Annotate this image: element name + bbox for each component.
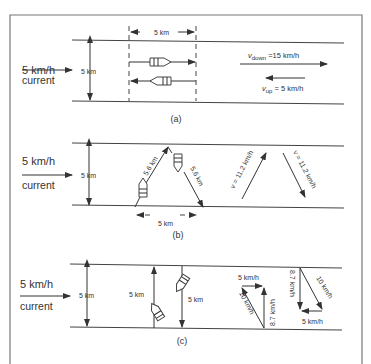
tri2-vert-label: 8.7 km/h xyxy=(289,270,296,297)
panel-c: 5 km/h current 5 km 5 km 5 km 5 km/h 10 … xyxy=(20,264,342,346)
span-label: 5 km xyxy=(158,220,173,227)
leg-down-label: 5.6 km xyxy=(189,165,205,187)
riverbank-bottom xyxy=(70,327,342,330)
panel-caption: (c) xyxy=(177,336,188,346)
width-label: 5 km xyxy=(81,68,96,75)
current-label: current xyxy=(22,74,55,86)
width-label: 5 km xyxy=(81,172,96,179)
riverbank-bottom xyxy=(72,101,344,104)
path-down-label: 5 km xyxy=(188,296,203,303)
panel-caption: (a) xyxy=(171,114,182,124)
riverbank-top xyxy=(72,40,344,43)
boat-icon xyxy=(139,178,147,197)
riverbank-bottom xyxy=(72,205,344,208)
current-label: current xyxy=(22,179,55,191)
panel-a: 5 km/h current 5 km 5 km vdown =15 km/h … xyxy=(22,26,344,124)
tri2-hyp-label: 10 km/h xyxy=(315,275,334,300)
boat-icon xyxy=(173,274,190,293)
boat-icon xyxy=(174,154,182,172)
width-label: 5 km xyxy=(79,292,94,299)
tri1-vert-label: 8.7 km/h xyxy=(269,299,276,326)
boat-icon xyxy=(148,301,164,321)
tri1-hyp-label: 10 km/h xyxy=(238,290,256,315)
boat-icon xyxy=(150,77,171,85)
v-down-label: vdown =15 km/h xyxy=(248,51,299,61)
path-up-label: 5 km xyxy=(129,291,144,298)
panel-caption: (b) xyxy=(173,230,184,240)
current-speed-label: 5 km/h xyxy=(22,155,55,167)
tri2-hyp-arrow xyxy=(300,268,322,309)
riverbank-top xyxy=(70,264,342,268)
tri2-bottom-label: 5 km/h xyxy=(302,318,323,325)
path-top xyxy=(168,147,172,153)
velocity-down-label: v = 11.2 km/h xyxy=(292,149,318,189)
panel-b: 5 km/h current 5 km 5.6 km 5.6 km 5 km v… xyxy=(22,143,344,240)
span-label: 5 km xyxy=(154,29,169,36)
v-up-label: vup = 5 km/h xyxy=(262,84,304,94)
current-speed-label: 5 km/h xyxy=(20,278,53,290)
boat-icon xyxy=(150,58,171,66)
riverbank-top xyxy=(72,143,344,146)
tri1-top-label: 5 km/h xyxy=(238,274,259,281)
figure-frame xyxy=(10,15,362,364)
river-crossing-diagram: 5 km/h current 5 km 5 km vdown =15 km/h … xyxy=(0,0,371,364)
current-label: current xyxy=(20,300,53,312)
